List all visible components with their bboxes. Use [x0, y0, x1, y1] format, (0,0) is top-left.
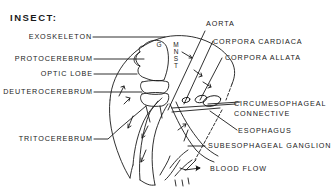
label-protocerebrum: PROTOCEREBRUM [10, 55, 93, 63]
marker-g: G [155, 42, 163, 49]
diagram-title: INSECT: [10, 12, 57, 23]
label-deuterocerebrum: DEUTEROCEREBRUM [0, 88, 93, 96]
label-circumesophageal: CIRCUMESOPHAGEAL [234, 100, 326, 108]
label-exoskeleton: EXOSKELETON [20, 33, 92, 41]
label-aorta: AORTA [206, 20, 235, 28]
marker-t: T [172, 63, 180, 70]
esophagus-leader [210, 111, 237, 130]
label-esophagus: ESOPHAGUS [238, 127, 292, 135]
label-corpora-cardiaca: CORPORA CARDIACA [213, 38, 302, 46]
label-blood-flow: BLOOD FLOW [210, 165, 267, 173]
label-corpora-allata: CORPORA ALLATA [225, 54, 301, 62]
protocerebrum-shape [136, 40, 169, 81]
label-subesophageal-ganglion: SUBESOPHAGEAL GANGLION [208, 142, 331, 150]
label-optic-lobe: OPTIC LOBE [20, 70, 93, 78]
blood-flow-arrows [119, 52, 211, 162]
label-connective: CONNECTIVE [234, 110, 290, 118]
label-tritocerebrum: TRITOCEREBRUM [10, 135, 93, 143]
